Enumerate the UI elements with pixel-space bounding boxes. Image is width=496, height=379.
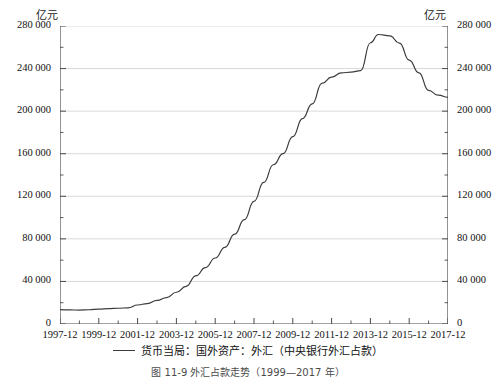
y-axis-right-tick-label: 120 000	[457, 189, 491, 200]
y-axis-left-tick-label: 80 000	[0, 232, 51, 243]
x-axis-tick-label: 2017-12	[419, 329, 477, 340]
y-axis-right-tick-label: 40 000	[457, 274, 486, 285]
y-axis-right-unit-label: 亿元	[424, 6, 446, 22]
axis-minor-ticks	[60, 47, 448, 324]
chart-legend: 货币当局：国外资产：外汇（中央银行外汇占款）	[0, 342, 496, 358]
y-axis-right-tick-label: 200 000	[457, 104, 491, 115]
y-axis-left-tick-label: 160 000	[0, 147, 51, 158]
y-axis-left-tick-label: 280 000	[0, 19, 51, 30]
series-line-layer	[60, 35, 448, 311]
axis-major-ticks	[60, 26, 448, 324]
y-axis-left-tick-label: 0	[0, 317, 51, 328]
line-chart-svg	[60, 26, 448, 324]
legend-label: 货币当局：国外资产：外汇（中央银行外汇占款）	[141, 342, 383, 358]
gridlines	[60, 26, 448, 281]
y-axis-left-tick-label: 120 000	[0, 189, 51, 200]
y-axis-right-tick-label: 240 000	[457, 62, 491, 73]
series-line-0	[60, 35, 448, 311]
y-axis-right-tick-label: 0	[457, 317, 462, 328]
y-axis-left-tick-label: 240 000	[0, 62, 51, 73]
y-axis-left-tick-label: 200 000	[0, 104, 51, 115]
y-axis-right-tick-label: 280 000	[457, 19, 491, 30]
legend-line-swatch	[113, 350, 135, 351]
y-axis-right-tick-label: 80 000	[457, 232, 486, 243]
y-axis-right-tick-label: 160 000	[457, 147, 491, 158]
plot-area	[60, 26, 448, 324]
y-axis-left-tick-label: 40 000	[0, 274, 51, 285]
figure-caption: 图 11-9 外汇占款走势（1999—2017 年）	[0, 364, 496, 379]
